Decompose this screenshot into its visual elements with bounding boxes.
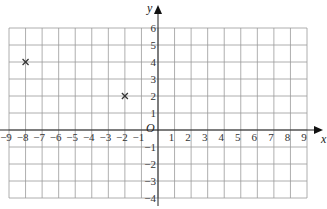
y-tick-label: −1: [144, 141, 156, 153]
x-tick-label: −6: [50, 131, 62, 143]
y-axis-arrow-icon: [154, 5, 162, 14]
y-tick-label: 5: [151, 39, 157, 51]
x-tick-label: 1: [169, 131, 175, 143]
x-tick-label: 3: [202, 131, 208, 143]
x-tick-label: 6: [252, 131, 258, 143]
coordinate-grid: xyO −9−8−7−6−5−4−3−2−1123456789−4−3−2−11…: [0, 0, 327, 209]
x-tick-label: 7: [268, 131, 274, 143]
x-tick-label: 9: [301, 131, 307, 143]
x-tick-label: −8: [17, 131, 29, 143]
x-axis-label: x: [320, 132, 327, 146]
y-tick-label: 4: [151, 56, 157, 68]
y-tick-label: 2: [151, 90, 157, 102]
x-tick-label: −3: [99, 131, 111, 143]
origin-label: O: [146, 121, 155, 135]
x-tick-label: −1: [133, 131, 145, 143]
x-tick-label: −2: [116, 131, 128, 143]
y-tick-label: 3: [151, 73, 157, 85]
x-tick-label: 5: [235, 131, 241, 143]
y-tick-label: 6: [151, 22, 157, 34]
x-tick-label: −4: [83, 131, 95, 143]
y-axis-label: y: [146, 1, 153, 15]
axes: xyO: [0, 1, 327, 206]
x-tick-label: 2: [185, 131, 191, 143]
x-tick-label: 4: [218, 131, 224, 143]
x-tick-label: −9: [0, 131, 12, 143]
x-tick-label: −5: [66, 131, 78, 143]
x-tick-label: −7: [33, 131, 45, 143]
y-tick-label: −4: [144, 192, 156, 204]
x-tick-label: 8: [285, 131, 291, 143]
y-tick-label: −3: [144, 175, 156, 187]
y-tick-label: 1: [151, 107, 157, 119]
y-tick-label: −2: [144, 158, 156, 170]
